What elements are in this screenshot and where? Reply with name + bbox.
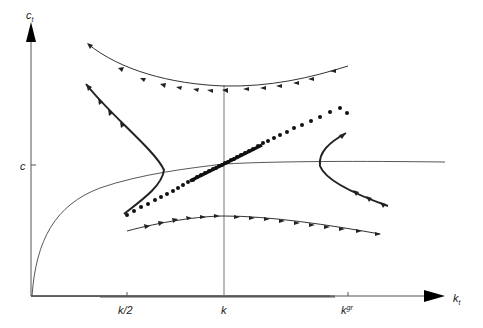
y-axis-label: ct <box>26 9 35 23</box>
tick-label-k: k <box>221 304 227 316</box>
x-axis <box>31 290 445 302</box>
c-locus-curve <box>32 161 445 296</box>
trajectory-left <box>86 84 164 214</box>
trajectory-right <box>320 133 388 206</box>
trajectory-lower <box>127 216 380 234</box>
x-axis-arrow-icon <box>424 290 445 302</box>
tick-label-c: c <box>20 160 26 172</box>
tick-label-k-half: k/2 <box>118 304 133 316</box>
phase-diagram: ct kt k/2 k kgr c <box>0 0 483 328</box>
y-axis <box>26 22 36 296</box>
tick-label-k-gr: kgr <box>341 304 353 316</box>
x-axis-label: kt <box>453 292 462 306</box>
y-axis-arrow-icon <box>26 22 36 42</box>
trajectory-upper <box>88 44 348 86</box>
